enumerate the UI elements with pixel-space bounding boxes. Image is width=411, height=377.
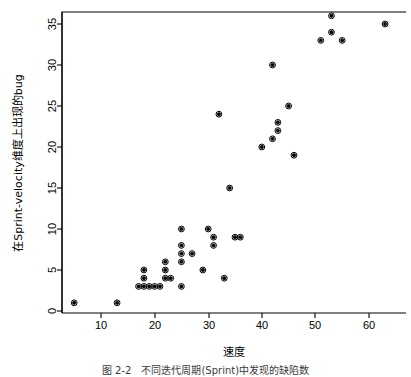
data-point [141,275,147,281]
data-point-core [217,113,220,116]
y-tick-label-25: 25 [46,100,58,112]
data-point [179,251,185,257]
x-tick-label-40: 40 [256,319,268,331]
data-point-core [212,244,215,247]
data-point-core [292,154,295,157]
data-point [189,251,195,257]
data-point-core [319,39,322,42]
y-tick-label-10: 10 [46,223,58,235]
data-point [318,38,324,44]
plot-frame [62,12,406,313]
data-point [339,38,345,44]
data-point [71,300,77,306]
x-tick-label-60: 60 [363,319,375,331]
data-point [286,103,292,109]
data-point [200,267,206,273]
y-tick-label-15: 15 [46,182,58,194]
y-axis-tick-labels: 0 5 10 15 20 25 30 35 [46,18,58,314]
data-points-layer [71,13,388,306]
data-point-core [164,268,167,271]
x-tick-label-50: 50 [309,319,321,331]
data-point [179,284,185,290]
data-point-core [233,236,236,239]
data-point [227,185,233,191]
data-point [211,243,217,249]
data-point [270,62,276,68]
data-point [141,267,147,273]
x-axis-ticks [101,313,369,318]
x-axis: 10 20 30 40 50 60 速度 [62,313,406,359]
data-point-core [153,285,156,288]
x-tick-label-30: 30 [203,319,215,331]
data-point [179,243,185,249]
data-point [179,226,185,232]
data-point [382,21,388,27]
y-axis-title: 在Sprint-velocity维度上出现的bug [11,74,25,251]
figure-container: 0 5 10 15 20 25 30 35 在Sprint-velocity维度… [0,0,411,377]
y-axis: 0 5 10 15 20 25 30 35 在Sprint-velocity维度… [11,12,63,314]
data-point-core [180,244,183,247]
data-point-core [164,277,167,280]
data-point-core [180,227,183,230]
data-point-core [330,14,333,17]
data-point-core [137,285,140,288]
data-point [270,136,276,142]
data-point-core [271,137,274,140]
data-point-core [190,252,193,255]
data-point [275,120,281,126]
data-point [291,152,297,158]
data-point-core [148,285,151,288]
scatter-plot: 0 5 10 15 20 25 30 35 在Sprint-velocity维度… [0,0,411,377]
data-point-core [228,186,231,189]
data-point-core [115,301,118,304]
y-tick-label-35: 35 [46,18,58,30]
data-point [205,226,211,232]
data-point-core [276,129,279,132]
data-point [221,275,227,281]
data-point [329,13,335,19]
y-tick-label-0: 0 [46,308,58,314]
x-tick-label-10: 10 [95,319,107,331]
data-point-core [287,104,290,107]
data-point [259,144,265,150]
data-point-core [271,63,274,66]
data-point [162,267,168,273]
x-axis-tick-labels: 10 20 30 40 50 60 [95,319,375,331]
data-point-core [142,277,145,280]
data-point-core [207,227,210,230]
x-tick-label-20: 20 [149,319,161,331]
data-point [162,259,168,265]
data-point [275,128,281,134]
data-point-core [142,268,145,271]
data-point-core [164,260,167,263]
data-point [216,111,222,117]
data-point-core [201,268,204,271]
y-tick-label-5: 5 [46,267,58,273]
data-point-core [383,22,386,25]
data-point [179,259,185,265]
data-point-core [223,277,226,280]
data-point-core [180,252,183,255]
data-point-core [158,285,161,288]
data-point-core [180,260,183,263]
data-point [114,300,120,306]
data-point-core [239,236,242,239]
data-point-core [73,301,76,304]
data-point-core [260,145,263,148]
data-point-core [330,31,333,34]
data-point-core [341,39,344,42]
data-point-core [142,285,145,288]
x-axis-title: 速度 [223,345,245,359]
data-point-core [212,236,215,239]
data-point-core [169,277,172,280]
y-tick-label-30: 30 [46,59,58,71]
y-tick-label-20: 20 [46,141,58,153]
data-point-core [180,285,183,288]
data-point-core [276,121,279,124]
data-point [329,29,335,35]
data-point [211,234,217,240]
figure-caption: 图 2-2 不同迭代周期(Sprint)中发现的缺陷数 [0,364,411,377]
